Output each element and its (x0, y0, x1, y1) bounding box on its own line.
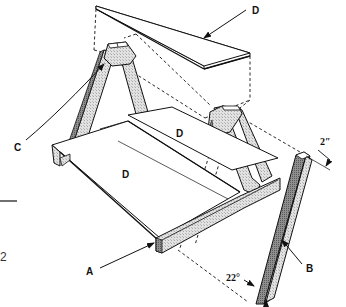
margin-page-fragment: 2 (0, 250, 7, 264)
label-d-front-board: D (122, 169, 129, 180)
label-b: B (282, 240, 313, 274)
angle-dimension: 22° (226, 272, 254, 286)
label-b-text: B (306, 263, 313, 274)
label-d-top-text: D (252, 5, 259, 16)
width-text: 2″ (320, 136, 331, 147)
label-d-back-board: D (176, 128, 183, 139)
assembly-diagram: D D D C A B 22° 2″ 2 (0, 0, 346, 307)
label-c-text: C (14, 142, 21, 153)
label-a-rail: A (86, 243, 154, 277)
label-a-rail-text: A (86, 266, 93, 277)
angle-text: 22° (226, 272, 240, 283)
label-d-top: D (204, 5, 259, 38)
